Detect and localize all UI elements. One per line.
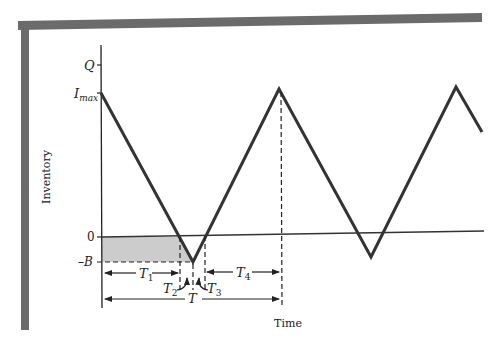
t-label: T (188, 291, 198, 306)
imax-label: Imax (73, 86, 98, 103)
y-axis (101, 45, 102, 308)
t2-curved-arrow (177, 278, 187, 290)
zero-line (102, 231, 484, 237)
dashed-vertical-peak (281, 92, 282, 305)
x-axis-label: Time (274, 317, 302, 330)
t4-label: T4 (236, 265, 251, 282)
t1-label: T1 (139, 266, 153, 283)
t3-label: T3 (207, 281, 222, 298)
t2-label: T2 (163, 281, 177, 298)
q-label: Q (84, 58, 95, 73)
backorder-shaded-area (102, 237, 193, 262)
frame-left-bar (21, 25, 29, 330)
zero-label: 0 (87, 230, 95, 244)
inventory-diagram: T1 T4 T2 T3 T Q Imax 0 –B Inventory Time (0, 0, 502, 346)
neg-b-label: –B (78, 255, 93, 269)
y-axis-label: Inventory (40, 149, 53, 204)
frame-top-bar (18, 13, 482, 30)
